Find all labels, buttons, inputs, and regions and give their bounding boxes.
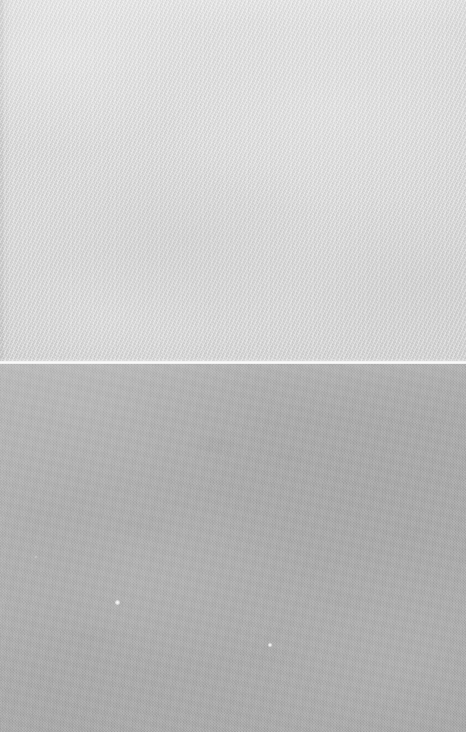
upper-film-grain — [0, 0, 466, 362]
lower-film-grain — [0, 364, 466, 732]
lower-medium-gray-matte-surface — [0, 364, 466, 732]
upper-light-gray-woven-fabric — [0, 0, 466, 362]
photograph-canvas — [0, 0, 466, 732]
